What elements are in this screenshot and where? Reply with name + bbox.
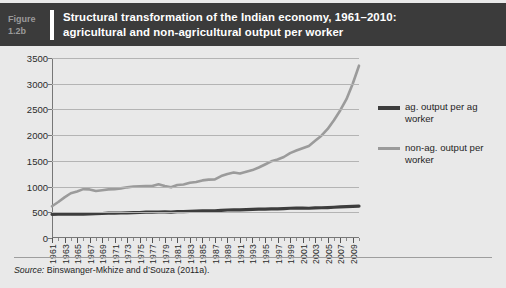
x-tick-label: 2009: [349, 244, 359, 264]
x-tick-label: 1989: [223, 244, 233, 264]
series-layer: [52, 58, 359, 238]
x-tick-minor: [346, 238, 347, 241]
x-tick-minor: [259, 238, 260, 241]
x-tick-label: 1985: [198, 244, 208, 264]
x-tick-label: 1995: [261, 244, 271, 264]
y-tick-mark: [48, 58, 52, 59]
gridline: [52, 135, 359, 136]
x-tick-major: [190, 238, 191, 243]
x-tick-label: 1997: [274, 244, 284, 264]
y-tick-mark: [48, 135, 52, 136]
source-prefix: Source:: [14, 265, 44, 275]
x-tick-major: [265, 238, 266, 243]
x-tick-major: [240, 238, 241, 243]
x-tick-minor: [271, 238, 272, 241]
legend-label: non-ag. output per worker: [405, 142, 500, 167]
x-tick-label: 1999: [286, 244, 296, 264]
x-tick-minor: [334, 238, 335, 241]
x-tick-minor: [209, 238, 210, 241]
x-tick-minor: [96, 238, 97, 241]
x-tick-major: [102, 238, 103, 243]
x-tick-major: [127, 238, 128, 243]
x-tick-minor: [296, 238, 297, 241]
figure-label-word: Figure: [8, 13, 50, 25]
gridline: [52, 212, 359, 213]
figure-header: Figure 1.2b Structural transformation of…: [0, 3, 506, 46]
header-divider-bar: [50, 10, 54, 40]
chart-area: 0500100015002000250030003500 19611963196…: [0, 46, 506, 258]
x-tick-label: 2001: [299, 244, 309, 264]
x-tick-minor: [246, 238, 247, 241]
y-tick-label: 2500: [27, 104, 48, 115]
x-tick-minor: [71, 238, 72, 241]
x-tick-label: 1971: [111, 244, 121, 264]
y-tick-mark: [48, 212, 52, 213]
x-tick-label: 1987: [211, 244, 221, 264]
x-tick-minor: [108, 238, 109, 241]
x-tick-label: 1965: [73, 244, 83, 264]
legend-entry: non-ag. output per worker: [378, 142, 500, 167]
x-tick-major: [340, 238, 341, 243]
x-tick-minor: [146, 238, 147, 241]
x-tick-major: [252, 238, 253, 243]
x-tick-minor: [83, 238, 84, 241]
x-tick-major: [328, 238, 329, 243]
y-tick-mark: [48, 187, 52, 188]
x-tick-label: 1981: [173, 244, 183, 264]
figure-number-block: Figure 1.2b: [0, 13, 50, 37]
y-tick-label: 1000: [27, 181, 48, 192]
y-tick-label: 2000: [27, 130, 48, 141]
x-tick-major: [77, 238, 78, 243]
x-tick-minor: [284, 238, 285, 241]
x-tick-label: 1991: [236, 244, 246, 264]
legend-entry: ag. output per ag worker: [378, 101, 500, 126]
x-tick-minor: [171, 238, 172, 241]
source-text: Binswanger-Mkhize and d’Souza (2011a).: [44, 265, 209, 275]
x-tick-label: 1983: [186, 244, 196, 264]
gridline: [52, 58, 359, 59]
legend-label: ag. output per ag worker: [405, 101, 500, 126]
y-tick-label: 1500: [27, 155, 48, 166]
x-tick-major: [290, 238, 291, 243]
figure-body: 0500100015002000250030003500 19611963196…: [0, 46, 506, 288]
x-tick-label: 1967: [86, 244, 96, 264]
x-tick-major: [215, 238, 216, 243]
x-tick-major: [202, 238, 203, 243]
x-tick-major: [65, 238, 66, 243]
x-tick-minor: [133, 238, 134, 241]
x-tick-minor: [359, 238, 360, 241]
x-tick-major: [52, 238, 53, 243]
x-tick-minor: [196, 238, 197, 241]
plot-panel: [52, 58, 359, 238]
x-tick-major: [353, 238, 354, 243]
legend-swatch: [378, 147, 400, 150]
figure-title-line-2: agricultural and non-agricultural output…: [63, 25, 397, 40]
x-axis-labels: 1961196319651967196919711973197519771979…: [52, 244, 359, 284]
chart-legend: ag. output per ag workernon-ag. output p…: [378, 101, 500, 183]
x-tick-minor: [159, 238, 160, 241]
x-tick-minor: [321, 238, 322, 241]
x-tick-label: 1977: [148, 244, 158, 264]
legend-swatch: [378, 106, 400, 110]
source-note: Source: Binswanger-Mkhize and d’Souza (2…: [14, 265, 209, 275]
x-tick-label: 1963: [61, 244, 71, 264]
x-tick-major: [227, 238, 228, 243]
x-tick-label: 1961: [48, 244, 58, 264]
y-axis-labels: 0500100015002000250030003500: [14, 46, 48, 258]
figure-label-number: 1.2b: [8, 25, 50, 37]
x-tick-label: 1979: [161, 244, 171, 264]
x-tick-label: 1993: [248, 244, 258, 264]
x-tick-label: 1973: [123, 244, 133, 264]
x-tick-major: [303, 238, 304, 243]
source-divider: [14, 257, 492, 258]
y-tick-mark: [48, 109, 52, 110]
x-tick-label: 2003: [311, 244, 321, 264]
x-tick-label: 1975: [136, 244, 146, 264]
x-tick-label: 2005: [324, 244, 334, 264]
gridline: [52, 84, 359, 85]
x-tick-label: 1969: [98, 244, 108, 264]
gridline: [52, 187, 359, 188]
x-tick-major: [152, 238, 153, 243]
y-tick-label: 500: [32, 207, 48, 218]
x-tick-major: [140, 238, 141, 243]
